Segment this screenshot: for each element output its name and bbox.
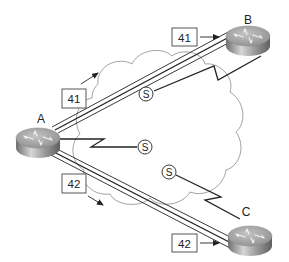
svg-text:42: 42 [68,178,81,190]
pvc-link-a-c [49,148,236,248]
serial-symbol-c: S [162,165,176,179]
dlci-box-ac-right: 42 [172,234,197,252]
frame-relay-cloud [73,50,243,204]
svg-text:41: 41 [68,93,81,105]
router-b[interactable] [226,26,270,56]
serial-symbol-b: S [139,87,153,101]
pvc-link-a-b [52,31,236,133]
arrow-icon [81,73,98,84]
svg-text:41: 41 [178,32,191,44]
serial-symbol-a: S [138,140,152,154]
svg-text:S: S [143,89,150,100]
svg-text:42: 42 [178,238,191,250]
dlci-box-ac-left: 42 [62,174,86,193]
router-c-label: C [242,205,251,219]
dlci-box-ab-right: 41 [172,28,197,46]
arrow-icon [88,196,103,205]
network-diagram: S S S A B C 41 41 42 42 [0,0,289,262]
svg-text:S: S [166,167,173,178]
router-b-label: B [244,13,252,27]
svg-text:S: S [142,142,149,153]
dlci-box-ab-left: 41 [62,89,86,108]
router-a-label: A [37,112,45,126]
router-c[interactable] [228,226,272,256]
router-a[interactable] [16,128,60,158]
serial-link-a [60,139,137,147]
